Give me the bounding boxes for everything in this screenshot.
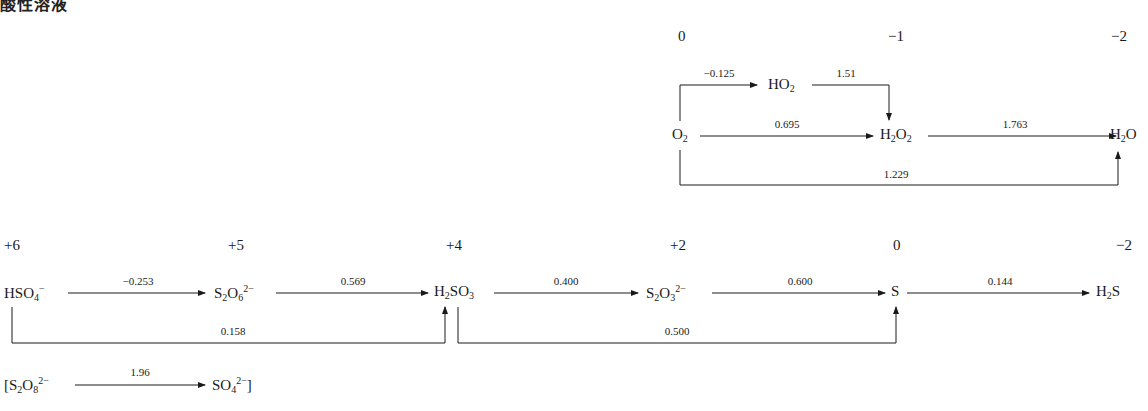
potential-hso4-h2so3: 0.158 bbox=[221, 325, 246, 337]
potential-o2-h2o: 1.229 bbox=[884, 168, 909, 180]
potential-h2so3-s: 0.500 bbox=[665, 325, 690, 337]
potential-s-h2s: 0.144 bbox=[988, 275, 1013, 287]
s-state-plus4: +4 bbox=[446, 237, 462, 254]
species-h2o2: H2O2 bbox=[880, 126, 912, 144]
species-h2o: H2O bbox=[1110, 126, 1137, 144]
ox-state-minus1: −1 bbox=[888, 28, 904, 45]
species-s: S bbox=[891, 283, 899, 300]
arrow-lines bbox=[0, 0, 1148, 411]
species-hso4: HSO4− bbox=[4, 283, 45, 303]
s-state-plus5: +5 bbox=[228, 237, 244, 254]
potential-s2o3-s: 0.600 bbox=[788, 275, 813, 287]
species-ho2: HO2 bbox=[768, 76, 795, 94]
s-state-plus2: +2 bbox=[670, 237, 686, 254]
ox-state-0: 0 bbox=[678, 28, 686, 45]
s-state-plus6: +6 bbox=[4, 237, 20, 254]
species-so4: SO42−] bbox=[212, 375, 252, 395]
s-state-minus2: −2 bbox=[1116, 237, 1132, 254]
potential-ho2-h2o2: 1.51 bbox=[836, 67, 855, 79]
potential-s2o6-h2so3: 0.569 bbox=[341, 275, 366, 287]
potential-hso4-s2o6: −0.253 bbox=[123, 275, 154, 287]
species-s2o3: S2O32− bbox=[646, 283, 686, 303]
potential-s2o8-so4: 1.96 bbox=[130, 366, 149, 378]
potential-h2o2-h2o: 1.763 bbox=[1003, 118, 1028, 130]
species-o2: O2 bbox=[672, 126, 688, 144]
potential-o2-ho2: −0.125 bbox=[704, 67, 735, 79]
species-s2o8: [S2O82− bbox=[4, 375, 49, 395]
ox-state-minus2: −2 bbox=[1111, 28, 1127, 45]
species-h2so3: H2SO3 bbox=[434, 283, 474, 301]
potential-o2-h2o2: 0.695 bbox=[775, 118, 800, 130]
species-s2o6: S2O62− bbox=[214, 283, 254, 303]
potential-h2so3-s2o3: 0.400 bbox=[554, 275, 579, 287]
s-state-0: 0 bbox=[893, 237, 901, 254]
species-h2s: H2S bbox=[1096, 283, 1120, 301]
